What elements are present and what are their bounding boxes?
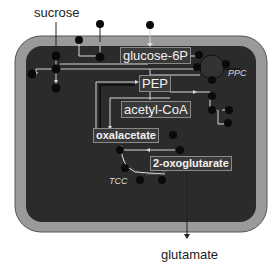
metabolic-diagram: sucrose glutamate glucose-6P PEP acetyl-…	[0, 0, 278, 269]
glutamate-arrowhead	[184, 234, 190, 239]
ppc-label: PPC	[228, 68, 247, 78]
tcc-label: TCC	[109, 176, 128, 186]
sucrose-label: sucrose	[34, 5, 80, 20]
glutamate-label: glutamate	[161, 247, 218, 262]
glucose-6p-label: glucose-6P	[120, 47, 191, 64]
pep-label: PEP	[139, 75, 171, 92]
ppc-circle	[200, 55, 224, 79]
2-oxoglutarate-label: 2-oxoglutarate	[150, 156, 232, 171]
acetyl-coa-label: acetyl-CoA	[121, 101, 191, 118]
oxalacetate-label: oxalacetate	[93, 128, 159, 143]
